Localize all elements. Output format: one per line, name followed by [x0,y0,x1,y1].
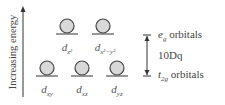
orbital-label-dx2y2: dx²−y² [95,41,116,56]
t2g-orbital-dxz [71,61,93,76]
eg-orbital-dx2y2 [92,19,114,34]
axis-label: Increasing energy [7,15,18,90]
orbital-label-dz2: dz² [62,41,72,56]
t2g-orbital-dxy [36,61,58,76]
energy-axis-arrow [21,6,26,97]
t2g-orbitals-label: t2g orbitals [158,68,204,83]
splitting-double-arrow [143,35,151,76]
orbital-label-dxz: dxz [76,83,87,98]
orbital-label-dyz: dyz [111,83,122,98]
orbital-label-dxy: dxy [41,83,53,98]
eg-orbital-dz2 [56,19,78,34]
t2g-orbital-dyz [106,61,128,76]
splitting-energy-label: 10Dq [158,49,182,61]
eg-orbitals-label: eg orbitals [158,28,202,43]
